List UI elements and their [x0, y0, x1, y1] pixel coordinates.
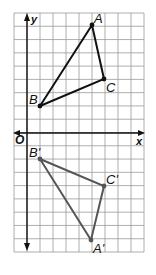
x-axis-label: x — [135, 135, 143, 147]
coordinate-plane: y x O A B C A' B' C' — [0, 0, 156, 275]
label-c: C — [106, 80, 116, 95]
label-c-prime: C' — [106, 172, 118, 187]
triangle-abc: A B C — [29, 11, 116, 108]
origin-label: O — [15, 133, 25, 147]
vertex-b — [38, 104, 43, 109]
y-axis-arrow-down-icon — [24, 243, 30, 251]
label-b-prime: B' — [29, 145, 41, 160]
label-a: A — [93, 11, 103, 26]
label-b: B — [29, 92, 38, 107]
label-a-prime: A' — [92, 241, 105, 256]
y-axis-label: y — [30, 13, 38, 25]
y-axis-arrow-up-icon — [24, 13, 30, 21]
